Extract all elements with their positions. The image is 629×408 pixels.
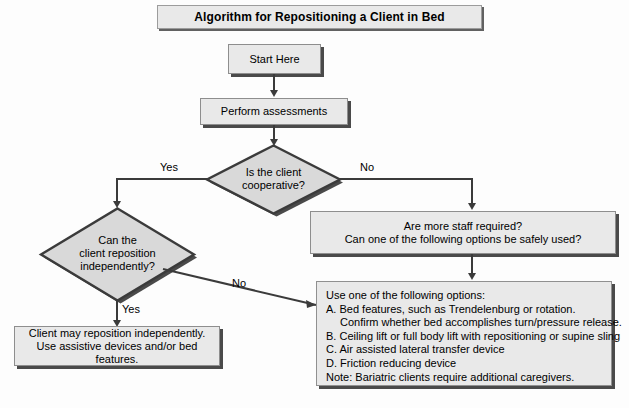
options-note: Note: Bariatric clients require addition… bbox=[326, 371, 611, 385]
options-item-a: A. Bed features, such as Trendelenburg o… bbox=[326, 303, 611, 317]
options-item-b: B. Ceiling lift or full body lift with r… bbox=[326, 330, 611, 344]
node-client-may-reposition: Client may reposition independently. Use… bbox=[14, 326, 220, 366]
options-item-d: D. Friction reducing device bbox=[326, 357, 611, 371]
node-options-list: Use one of the following options: A. Bed… bbox=[316, 281, 612, 386]
options-item-a-note: Confirm whether bed accomplishes turn/pr… bbox=[326, 316, 611, 330]
flowchart-canvas: Algorithm for Repositioning a Client in … bbox=[0, 0, 629, 408]
edge-label-independent-no: No bbox=[232, 277, 246, 289]
options-heading: Use one of the following options: bbox=[326, 289, 611, 303]
connector-independent-yes-vertical bbox=[116, 300, 118, 322]
edge-label-independent-yes: Yes bbox=[122, 303, 140, 315]
options-item-c: C. Air assisted lateral transfer device bbox=[326, 343, 611, 357]
